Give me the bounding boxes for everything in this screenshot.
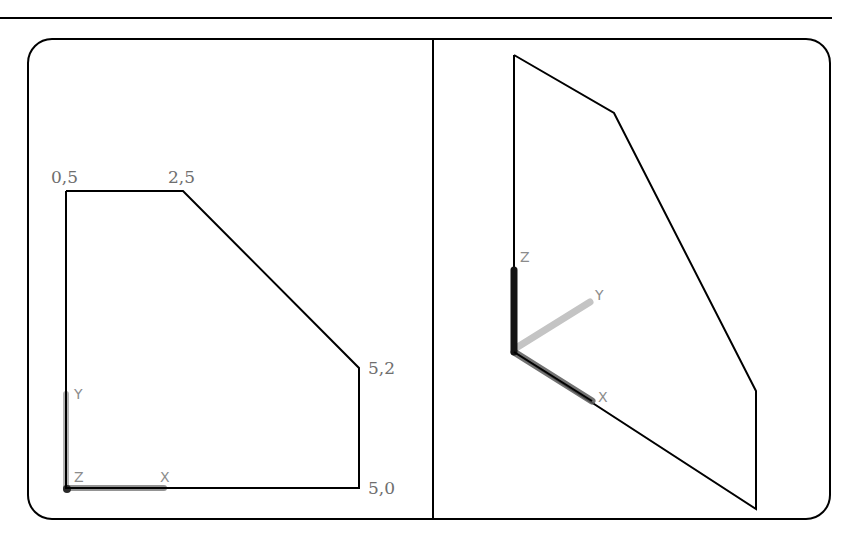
isometric-outline — [514, 55, 756, 509]
y-axis-label: Y — [594, 287, 604, 303]
x-axis-label: X — [598, 389, 608, 405]
vertex-label-5-0: 5,0 — [368, 478, 395, 498]
y-axis-label: Y — [73, 386, 83, 402]
z-axis-label: Z — [74, 469, 84, 485]
vertex-label-0-5: 0,5 — [51, 167, 78, 187]
vertex-label-5-2: 5,2 — [368, 358, 395, 378]
z-axis-label: Z — [520, 249, 530, 265]
diagram-canvas: 0,5 2,5 5,2 5,0 Y Z X Z Y X — [0, 0, 860, 549]
profile-outline — [66, 191, 359, 488]
y-axis-icon — [516, 302, 590, 348]
right-view: Z Y X — [514, 55, 756, 509]
vertex-label-2-5: 2,5 — [168, 167, 195, 187]
x-axis-label: X — [160, 469, 170, 485]
x-axis-edge — [514, 352, 592, 401]
left-view: 0,5 2,5 5,2 5,0 Y Z X — [51, 167, 395, 498]
frame — [28, 39, 830, 519]
